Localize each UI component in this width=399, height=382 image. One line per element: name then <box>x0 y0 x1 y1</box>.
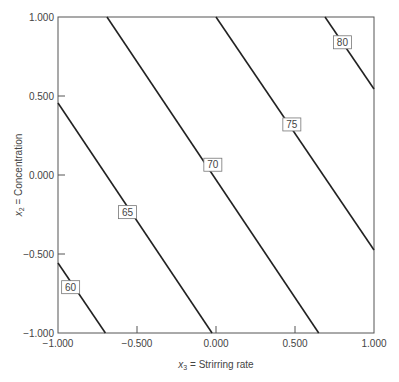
x-tick-label: 1.000 <box>361 338 386 349</box>
y-tick-label: −1.000 <box>23 328 54 339</box>
x-tick-label: 0.000 <box>203 338 228 349</box>
x-tick-label: −1.000 <box>43 338 74 349</box>
contour-label-70: 70 <box>207 159 219 170</box>
contour-label-65: 65 <box>122 207 134 218</box>
x-tick-label: 0.500 <box>282 338 307 349</box>
y-axis-label: x2 = Concentration <box>13 134 25 218</box>
contour-line-70 <box>107 17 319 333</box>
contour-label-80: 80 <box>337 37 349 48</box>
y-tick-label: 1.000 <box>29 12 54 23</box>
contour-label-60: 60 <box>65 282 77 293</box>
y-tick-label: 0.500 <box>29 91 54 102</box>
contour-lines <box>58 17 374 333</box>
x-tick-label: −0.500 <box>122 338 153 349</box>
axis-ticks: −1.000−0.5000.0000.5001.0001.0000.5000.0… <box>23 12 387 350</box>
contour-chart: −1.000−0.5000.0000.5001.0001.0000.5000.0… <box>0 0 399 382</box>
contour-label-75: 75 <box>286 119 298 130</box>
y-tick-label: 0.000 <box>29 170 54 181</box>
contour-line-80 <box>325 17 374 89</box>
x-axis-label: x3 = Strirring rate <box>177 359 254 371</box>
contour-labels: 6065707580 <box>62 36 352 294</box>
y-tick-label: −0.500 <box>23 249 54 260</box>
contour-line-60 <box>58 263 105 333</box>
